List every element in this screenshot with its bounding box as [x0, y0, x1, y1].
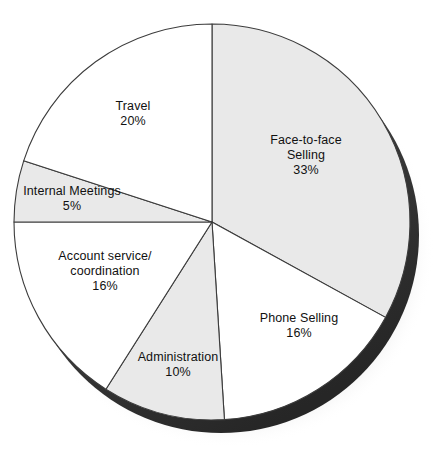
pie-label-name: Account service/	[32, 249, 178, 264]
pie-label-administration: Administration 10%	[114, 350, 242, 380]
pie-label-value: 20%	[78, 114, 188, 129]
pie-label-value: 16%	[238, 326, 360, 341]
pie-label-travel: Travel 20%	[78, 99, 188, 129]
pie-label-name-2: coordination	[32, 264, 178, 279]
pie-label-name: Travel	[78, 99, 188, 114]
pie-label-value: 10%	[114, 365, 242, 380]
pie-label-face-to-face-selling: Face-to-face Selling 33%	[246, 133, 366, 178]
pie-label-name: Internal Meetings	[2, 184, 142, 199]
pie-chart: Face-to-face Selling 33% Phone Selling 1…	[0, 0, 448, 470]
pie-label-name: Phone Selling	[238, 311, 360, 326]
pie-label-phone-selling: Phone Selling 16%	[238, 311, 360, 341]
pie-label-name-2: Selling	[246, 148, 366, 163]
pie-label-internal-meetings: Internal Meetings 5%	[2, 184, 142, 214]
pie-label-account-service-coordination: Account service/ coordination 16%	[32, 249, 178, 294]
pie-label-name: Face-to-face	[246, 133, 366, 148]
pie-label-value: 5%	[2, 199, 142, 214]
pie-label-value: 16%	[32, 279, 178, 294]
pie-label-value: 33%	[246, 163, 366, 178]
pie-chart-canvas	[0, 0, 448, 470]
pie-label-name: Administration	[114, 350, 242, 365]
